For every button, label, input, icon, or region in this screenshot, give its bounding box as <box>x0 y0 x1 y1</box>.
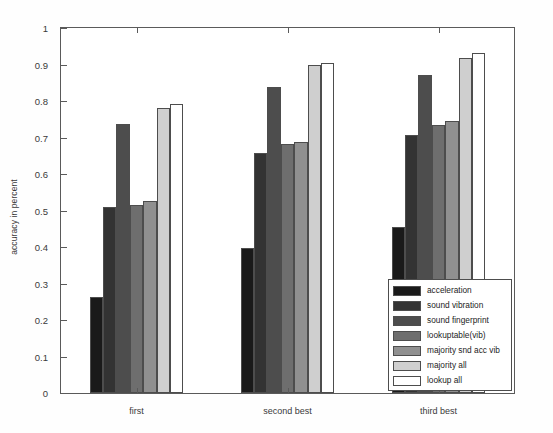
x-axis-tick-mark-top <box>439 28 440 33</box>
legend-item-label: acceleration <box>427 286 472 294</box>
legend-item-label: lookuptable(vib) <box>427 331 486 339</box>
legend-color-swatch <box>393 331 421 341</box>
y-axis-tick-mark <box>61 247 67 248</box>
x-axis-group-label: second best <box>263 406 312 416</box>
legend-item-label: majority snd acc vib <box>427 346 500 354</box>
legend-color-swatch <box>393 346 421 356</box>
legend-item: sound fingerprint <box>393 313 507 328</box>
legend-item: sound vibration <box>393 298 507 313</box>
y-axis-tick-mark <box>61 101 67 102</box>
legend-color-swatch <box>393 316 421 326</box>
bar-chart-figure: accuracy in percent 00.10.20.30.40.50.60… <box>0 0 553 433</box>
y-axis-tick-mark <box>61 174 67 175</box>
y-axis-tick-mark <box>61 28 67 29</box>
y-axis-tick-label: 0.7 <box>35 132 48 143</box>
bar <box>157 108 170 393</box>
y-axis-tick-label: 0.6 <box>35 169 48 180</box>
y-axis-tick-label: 0.5 <box>35 205 48 216</box>
bar <box>116 124 129 393</box>
legend-item: acceleration <box>393 283 507 298</box>
x-axis-group-label: first <box>129 406 144 416</box>
x-axis-tick-mark <box>288 388 289 393</box>
legend-item: lookup all <box>393 373 507 388</box>
legend-item: majority snd acc vib <box>393 343 507 358</box>
y-axis-tick-label: 1 <box>43 23 48 34</box>
x-axis-tick-mark-top <box>288 28 289 33</box>
bar <box>143 201 156 393</box>
bar <box>170 104 183 393</box>
bar <box>90 297 103 393</box>
y-axis-tick-mark <box>61 211 67 212</box>
y-axis-tick-label: 0 <box>43 388 48 399</box>
y-axis-tick-mark <box>61 138 67 139</box>
legend-item: lookuptable(vib) <box>393 328 507 343</box>
y-axis-title: accuracy in percent <box>9 179 19 255</box>
x-axis-tick-mark-top <box>137 28 138 33</box>
legend-item-label: sound fingerprint <box>427 316 489 324</box>
y-axis-tick-mark <box>61 65 67 66</box>
y-axis-tick-label: 0.8 <box>35 96 48 107</box>
y-axis-tick-label: 0.1 <box>35 351 48 362</box>
legend-color-swatch <box>393 286 421 296</box>
y-axis-tick-label: 0.4 <box>35 242 48 253</box>
legend-color-swatch <box>393 301 421 311</box>
legend-color-swatch <box>393 376 421 386</box>
y-axis-tick-label: 0.3 <box>35 278 48 289</box>
y-axis-tick-label: 0.2 <box>35 315 48 326</box>
bar <box>130 205 143 393</box>
legend-item-label: lookup all <box>427 376 462 384</box>
y-axis-tick-mark <box>61 284 67 285</box>
legend-color-swatch <box>393 361 421 371</box>
y-axis-tick-mark <box>61 320 67 321</box>
x-axis-group-label: third best <box>420 406 457 416</box>
x-axis-tick-mark <box>137 388 138 393</box>
bar <box>321 63 334 393</box>
bar <box>103 207 116 393</box>
bar <box>308 65 321 393</box>
bar <box>294 142 307 393</box>
bar <box>254 153 267 393</box>
legend-item: majority all <box>393 358 507 373</box>
y-axis-tick-mark <box>61 357 67 358</box>
bar <box>281 144 294 393</box>
chart-legend: accelerationsound vibrationsound fingerp… <box>388 279 512 391</box>
y-axis-tick-mark <box>61 393 67 394</box>
legend-item-label: majority all <box>427 361 467 369</box>
y-axis-tick-label: 0.9 <box>35 59 48 70</box>
bar <box>267 87 280 393</box>
legend-item-label: sound vibration <box>427 301 483 309</box>
bar <box>241 248 254 393</box>
